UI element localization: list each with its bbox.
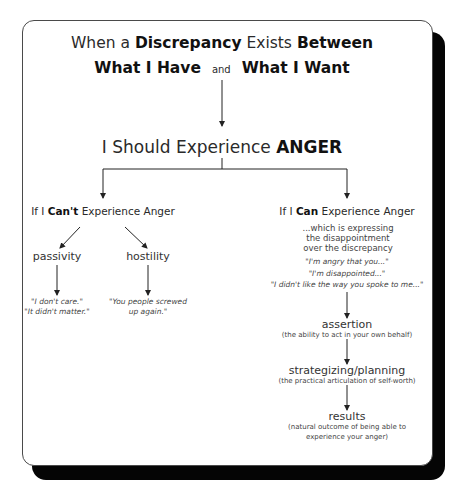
node-results: results bbox=[329, 411, 366, 422]
arrow-to-passivity bbox=[60, 227, 80, 248]
note-line: (natural outcome of being able to bbox=[288, 423, 406, 433]
central-emphasis-anger: ANGER bbox=[276, 137, 342, 157]
right-branch-emphasis: Can bbox=[296, 205, 318, 217]
central-node: I Should Experience ANGER bbox=[102, 139, 342, 156]
results-note: (natural outcome of being able to experi… bbox=[288, 423, 406, 442]
right-branch-suffix: Experience Anger bbox=[318, 205, 415, 217]
what-i-want: What I Want bbox=[242, 59, 350, 77]
quote: "I don't care." bbox=[24, 297, 89, 307]
right-branch-prefix: If I bbox=[279, 205, 296, 217]
header-text: When a bbox=[71, 34, 135, 52]
description-line: over the discrepancy bbox=[302, 243, 393, 253]
header-emphasis-discrepancy: Discrepancy bbox=[135, 34, 242, 52]
header-line-1: When a Discrepancy Exists Between bbox=[71, 36, 373, 52]
what-i-have: What I Have bbox=[94, 59, 201, 77]
left-branch-suffix: Experience Anger bbox=[78, 205, 175, 217]
description-line: the disappointment bbox=[302, 233, 393, 243]
quote: "I'm disappointed..." bbox=[271, 268, 424, 280]
node-passivity: passivity bbox=[33, 251, 82, 262]
quote: "It didn't matter." bbox=[24, 307, 89, 317]
right-branch-quotes: "I'm angry that you..." "I'm disappointe… bbox=[271, 256, 424, 291]
arrow-to-hostility bbox=[125, 227, 147, 248]
quote: up again." bbox=[109, 307, 187, 317]
header-line-2: What I Have and What I Want bbox=[94, 61, 349, 77]
hostility-quotes: "You people screwed up again." bbox=[109, 297, 187, 317]
central-prefix: I Should Experience bbox=[102, 137, 276, 157]
header-text: Exists bbox=[242, 34, 297, 52]
right-branch-heading: If I Can Experience Anger bbox=[279, 206, 414, 217]
strategizing-note: (the practical articulation of self-wort… bbox=[278, 377, 415, 387]
quote: "You people screwed bbox=[109, 297, 187, 307]
quote: "I didn't like the way you spoke to me..… bbox=[271, 279, 424, 291]
description-line: ...which is expressing bbox=[302, 223, 393, 233]
header-emphasis-between: Between bbox=[297, 34, 373, 52]
assertion-note: (the ability to act in your own behalf) bbox=[282, 331, 412, 341]
right-branch-description: ...which is expressing the disappointmen… bbox=[302, 223, 393, 253]
left-branch-heading: If I Can't Experience Anger bbox=[31, 206, 175, 217]
node-assertion: assertion bbox=[322, 319, 373, 330]
left-branch-emphasis: Can't bbox=[48, 205, 79, 217]
node-strategizing-planning: strategizing/planning bbox=[289, 365, 406, 376]
note-line: experience your anger) bbox=[288, 433, 406, 443]
and-connector: and bbox=[212, 64, 231, 75]
node-hostility: hostility bbox=[126, 251, 170, 262]
left-branch-prefix: If I bbox=[31, 205, 48, 217]
passivity-quotes: "I don't care." "It didn't matter." bbox=[24, 297, 89, 317]
quote: "I'm angry that you..." bbox=[271, 256, 424, 268]
